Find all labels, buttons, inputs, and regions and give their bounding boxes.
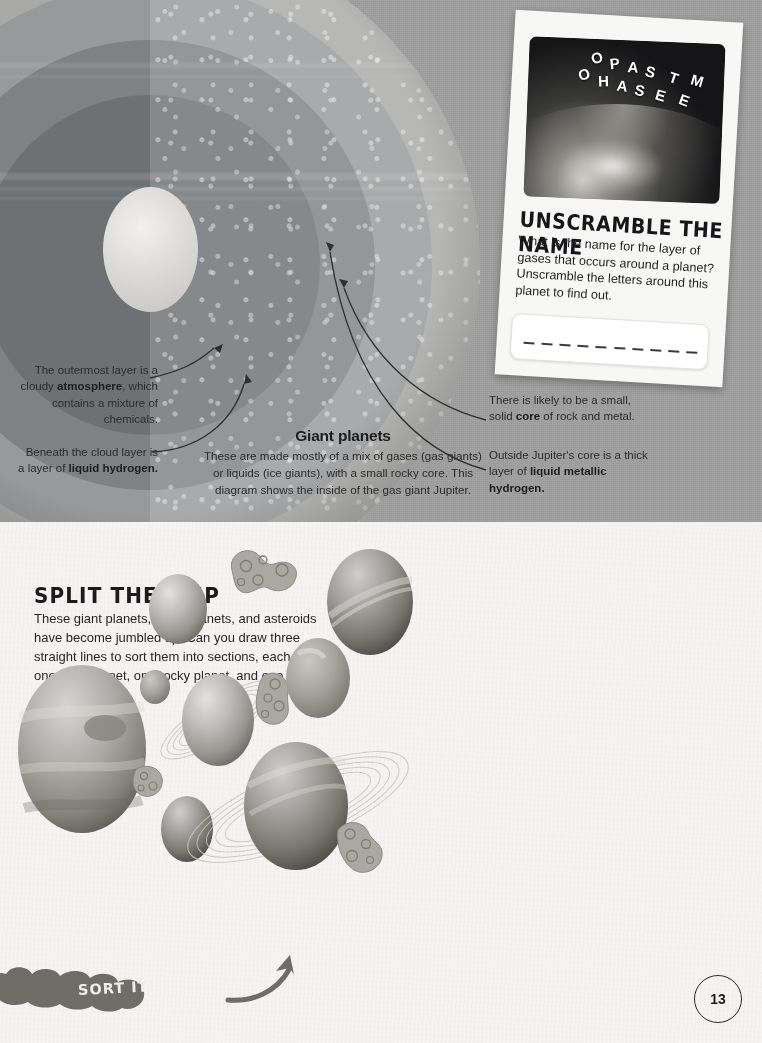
asteroid[interactable] — [256, 673, 288, 724]
giant-planet[interactable] — [327, 549, 413, 655]
annotation-liquid-hydrogen: Beneath the cloud layer is a layer of li… — [18, 444, 158, 477]
worksheet-page: The outermost layer is a cloudy atmosphe… — [0, 0, 762, 1043]
answer-blank — [668, 350, 679, 352]
page-number: 13 — [710, 991, 726, 1007]
scramble-letter: A — [616, 77, 629, 95]
asteroid[interactable] — [231, 551, 296, 593]
answer-blank — [686, 351, 697, 353]
scramble-letter: E — [677, 90, 692, 109]
annotation-atmosphere: The outermost layer is a cloudy atmosphe… — [18, 362, 158, 427]
scramble-letter: A — [627, 58, 639, 76]
giant-planet-jupiter[interactable] — [18, 665, 146, 833]
answer-blank — [578, 345, 589, 347]
unscramble-body: What is the name for the layer of gases … — [515, 232, 720, 310]
scramble-letter: P — [609, 54, 621, 72]
annotation-keyword: core — [516, 410, 540, 422]
answer-blank — [524, 342, 535, 344]
annotation-text-after: of rock and metal. — [540, 410, 635, 422]
annotation-keyword: liquid hydrogen. — [69, 462, 158, 474]
scramble-letter: O — [589, 48, 605, 68]
answer-input-box[interactable] — [510, 313, 710, 370]
scramble-letter: E — [653, 86, 667, 105]
page-number-badge: 13 — [694, 975, 742, 1023]
answer-blank — [632, 348, 643, 350]
annotation-core: There is likely to be a small, solid cor… — [489, 392, 639, 425]
giant-planets-body: These are made mostly of a mix of gases … — [198, 448, 488, 499]
planet-cutaway-section: The outermost layer is a cloudy atmosphe… — [0, 0, 762, 545]
answer-blank — [596, 346, 607, 348]
rocky-planet[interactable] — [286, 638, 350, 718]
answer-blank — [614, 347, 625, 349]
rocky-planet[interactable] — [140, 670, 170, 704]
scramble-letter: H — [598, 72, 609, 89]
scramble-letter: T — [667, 68, 681, 87]
giant-planets-caption: Giant planets These are made mostly of a… — [198, 427, 488, 499]
scramble-letter: O — [577, 65, 591, 84]
planet-photo: O P A S T M O H A S E E — [523, 36, 725, 204]
rocky-planet[interactable] — [149, 574, 207, 644]
asteroid[interactable] — [338, 823, 383, 873]
answer-blank — [560, 344, 571, 346]
scramble-letter: S — [644, 62, 658, 81]
answer-blank — [542, 343, 553, 345]
scramble-letter: S — [633, 81, 646, 100]
asteroid[interactable] — [133, 766, 162, 796]
rocky-planet[interactable] — [161, 796, 213, 862]
answer-blank — [650, 349, 661, 351]
scramble-letter: M — [689, 71, 706, 91]
annotation-metallic-hydrogen: Outside Jupiter's core is a thick layer … — [489, 447, 654, 496]
annotation-keyword: atmosphere — [57, 380, 122, 392]
unscramble-card: O P A S T M O H A S E E UNSCRAMBLE THE N… — [495, 10, 744, 388]
giant-planets-title: Giant planets — [198, 427, 488, 445]
answer-blanks — [524, 342, 698, 354]
sort-arrow-icon — [224, 954, 314, 1014]
